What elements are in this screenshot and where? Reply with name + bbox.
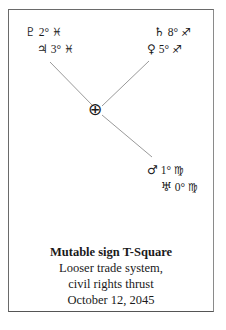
earth-icon: ⊕ [88, 101, 102, 118]
pisces-icon: ♓ [52, 26, 62, 39]
line-sagittarius [102, 61, 149, 106]
planet-saturn: ♄ 8° ♐ [154, 26, 191, 39]
planet-venus: ♀ 5° ♐ [147, 43, 182, 56]
virgo-icon: ♍ [188, 181, 198, 194]
pluto-icon: ♇ [25, 25, 36, 39]
line-virgo [102, 115, 152, 157]
caption-line-1: Looser trade system, [8, 260, 214, 276]
planet-mars: ♂ 1° ♍ [147, 164, 184, 177]
caption-line-2: civil rights thrust [8, 276, 214, 292]
saturn-icon: ♄ [154, 25, 165, 39]
caption-date: October 12, 2045 [8, 292, 214, 308]
line-pisces [50, 62, 93, 106]
sagittarius-icon: ♐ [181, 26, 191, 39]
pisces-icon: ♓ [64, 43, 74, 56]
uranus-icon: ♅ [161, 180, 172, 194]
mars-icon: ♂ [147, 163, 158, 177]
jupiter-icon: ♃ [37, 42, 48, 56]
planet-jupiter: ♃ 3° ♓ [37, 43, 74, 56]
sagittarius-icon: ♐ [172, 43, 182, 56]
caption: Mutable sign T-Square Looser trade syste… [8, 244, 214, 308]
virgo-icon: ♍ [174, 164, 184, 177]
venus-icon: ♀ [147, 42, 156, 56]
planet-pluto: ♇ 2° ♓ [25, 26, 62, 39]
planet-uranus: ♅ 0° ♍ [161, 181, 198, 194]
caption-title: Mutable sign T-Square [8, 244, 214, 260]
